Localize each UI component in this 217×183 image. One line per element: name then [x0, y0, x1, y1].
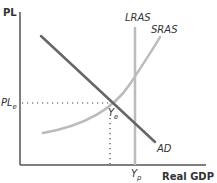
sras-label: SRAS	[151, 24, 178, 35]
sras-curve	[43, 37, 160, 133]
equilibrium-price-label: PLe	[1, 97, 17, 111]
potential-output-label-sub: p	[136, 174, 142, 182]
equilibrium-price-label-sub: e	[13, 103, 17, 111]
equilibrium-output-label-sub: e	[114, 113, 118, 121]
potential-output-label: Yp	[131, 168, 142, 182]
y-axis-label: PL	[3, 7, 17, 18]
ad-label: AD	[156, 143, 172, 154]
ad-as-diagram: PL Real GDP LRAS SRAS AD PLe Ye Yp	[0, 0, 217, 183]
x-axis-label: Real GDP	[162, 171, 214, 182]
equilibrium-price-label-main: PL	[1, 97, 13, 108]
lras-label: LRAS	[125, 12, 151, 23]
ad-curve	[41, 36, 155, 142]
